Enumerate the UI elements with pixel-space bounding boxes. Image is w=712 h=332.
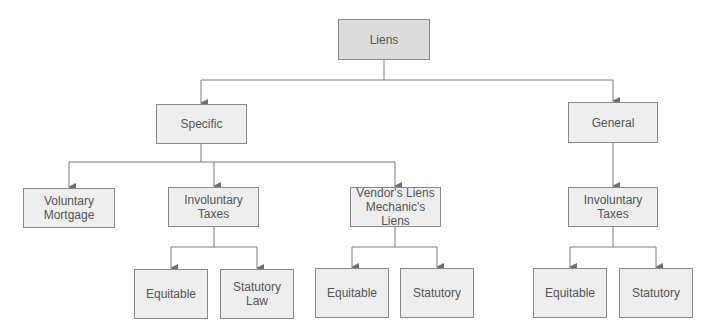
node-voluntary-mortgage: Voluntary Mortgage (23, 188, 115, 228)
node-label: Vendor's Liens Mechanic's Liens (351, 186, 440, 228)
node-label: General (592, 116, 635, 130)
node-equitable-1: Equitable (134, 269, 208, 319)
node-label: Voluntary Mortgage (44, 194, 95, 222)
node-label: Statutory Law (233, 280, 281, 308)
node-label: Specific (180, 117, 222, 131)
node-specific: Specific (156, 104, 247, 144)
node-involuntary-taxes-specific: Involuntary Taxes (168, 187, 259, 227)
node-label: Involuntary Taxes (184, 193, 243, 221)
node-label: Statutory (413, 286, 461, 300)
node-label: Statutory (632, 286, 680, 300)
node-statutory-2: Statutory (400, 268, 474, 318)
node-general: General (568, 102, 658, 143)
node-liens: Liens (338, 19, 430, 60)
node-statutory-3: Statutory (619, 268, 693, 318)
node-vendors-mechanics-liens: Vendor's Liens Mechanic's Liens (350, 187, 441, 227)
node-equitable-2: Equitable (315, 268, 389, 318)
node-label: Involuntary Taxes (584, 193, 643, 221)
liens-tree-diagram: Liens Specific General Voluntary Mortgag… (0, 0, 712, 332)
node-label: Equitable (545, 286, 595, 300)
node-label: Equitable (327, 286, 377, 300)
node-label: Liens (370, 33, 399, 47)
node-involuntary-taxes-general: Involuntary Taxes (568, 187, 658, 227)
node-equitable-3: Equitable (533, 268, 607, 318)
node-statutory-law-1: Statutory Law (220, 269, 294, 319)
node-label: Equitable (146, 287, 196, 301)
